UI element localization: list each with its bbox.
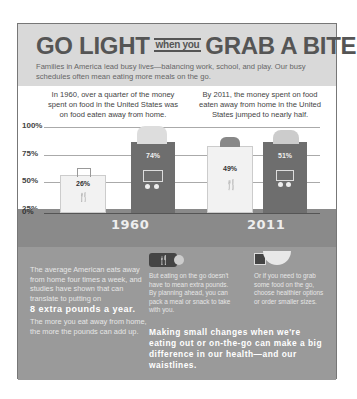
title-small: when you	[154, 38, 202, 52]
bottom-section: The average American eats away from home…	[18, 247, 336, 380]
infographic-panel: GO LIGHTwhen youGRAB A BITE Families in …	[17, 23, 337, 379]
bag-handle-icon	[77, 168, 91, 177]
title-part1: GO LIGHT	[36, 32, 150, 59]
bar-1960-at-home: 74%	[131, 142, 175, 213]
subtitle: Families in America lead busy lives—bala…	[36, 62, 326, 82]
shopping-cart-icon	[143, 170, 163, 182]
data-label: 74%	[131, 152, 175, 159]
gridline-0	[44, 213, 320, 214]
data-label: 49%	[208, 165, 252, 172]
shopping-cart-icon	[276, 170, 294, 181]
food-icon	[220, 137, 240, 147]
bar-2011-away-from-home: 49% 🍴	[207, 146, 253, 213]
lunchbox-icon: 🍴	[149, 253, 177, 267]
tip-healthier-options: Or if you need to grab some food on the …	[254, 272, 326, 306]
cart-wheel-icon	[145, 184, 150, 189]
data-label: 26%	[61, 180, 105, 187]
header: GO LIGHTwhen youGRAB A BITE Families in …	[18, 24, 336, 86]
tip-pack-meal: But eating on the go doesn't have to mea…	[149, 272, 235, 315]
gridline-100	[44, 127, 320, 128]
fact-intro: The average American eats away from home…	[30, 265, 142, 303]
data-label: 51%	[263, 152, 307, 159]
cart-wheel-icon	[278, 182, 283, 187]
y-tick-0: 0%	[22, 207, 34, 216]
caption-1960: In 1960, over a quarter of the money spe…	[46, 90, 180, 120]
year-label-2011: 2011	[247, 217, 285, 232]
fork-knife-icon: 🍴	[225, 179, 237, 190]
fact-text: The average American eats away from home…	[30, 265, 148, 336]
bar-2011-at-home: 51%	[263, 142, 307, 213]
groceries-icon	[137, 126, 167, 144]
fact-highlight: 8 extra pounds a year.	[30, 305, 148, 315]
chart-ground	[18, 209, 336, 247]
fork-knife-icon: 🍴	[78, 192, 89, 202]
year-label-1960: 1960	[111, 217, 149, 232]
cart-wheel-icon	[286, 182, 291, 187]
fact-outro: The more you eat away from home, the mor…	[30, 317, 147, 336]
y-tick-75: 75%	[22, 149, 38, 158]
groceries-icon	[273, 130, 299, 144]
y-tick-50: 50%	[22, 176, 38, 185]
conclusion-text: Making small changes when we're eating o…	[149, 327, 329, 371]
y-tick-100: 100%	[22, 121, 42, 130]
title-part2: GRAB A BITE	[205, 32, 356, 59]
apple-icon	[174, 255, 184, 265]
bowl-icon	[263, 251, 291, 265]
page-title: GO LIGHTwhen youGRAB A BITE	[36, 32, 356, 60]
cart-wheel-icon	[154, 184, 159, 189]
caption-2011: By 2011, the money spent on food eaten a…	[196, 90, 324, 120]
bar-1960-away-from-home: 26% 🍴	[60, 175, 106, 213]
